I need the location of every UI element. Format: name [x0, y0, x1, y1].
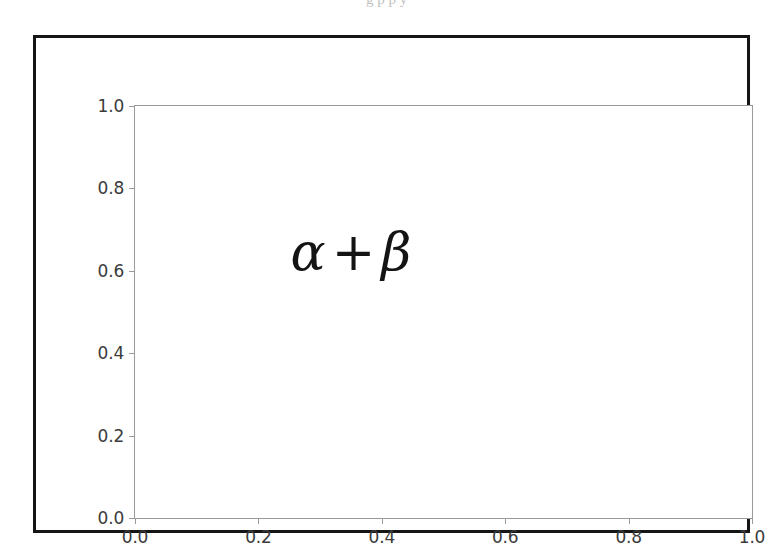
y-tick-label: 0.4 — [98, 343, 124, 363]
x-tick-label: 0.6 — [492, 527, 518, 547]
beta-glyph: β — [381, 222, 411, 282]
y-tick-mark — [129, 271, 135, 272]
x-tick-mark — [135, 518, 136, 524]
y-tick-label: 0.2 — [98, 426, 124, 446]
y-tick-label: 0.0 — [98, 508, 124, 528]
plus-operator-glyph: + — [326, 222, 382, 282]
x-tick-mark — [629, 518, 630, 524]
x-tick-label: 0.4 — [369, 527, 395, 547]
figure-frame: 0.00.20.40.60.81.0 0.00.20.40.60.81.0 α+… — [33, 35, 750, 533]
y-tick-label: 0.8 — [98, 178, 124, 198]
y-tick-mark — [129, 353, 135, 354]
y-tick-label: 1.0 — [98, 96, 124, 116]
x-tick-label: 0.0 — [122, 527, 148, 547]
x-tick-label: 1.0 — [739, 527, 765, 547]
y-tick-mark — [129, 188, 135, 189]
x-tick-label: 0.8 — [615, 527, 641, 547]
page-top-text-bleed: g p p y — [0, 0, 773, 7]
alpha-glyph: α — [291, 222, 326, 282]
y-tick-label: 0.6 — [98, 261, 124, 281]
math-annotation-alpha-plus-beta: α+β — [291, 226, 412, 278]
x-tick-mark — [505, 518, 506, 524]
x-tick-mark — [382, 518, 383, 524]
y-tick-mark — [129, 106, 135, 107]
x-tick-label: 0.2 — [245, 527, 271, 547]
x-tick-mark — [752, 518, 753, 524]
y-tick-mark — [129, 436, 135, 437]
plot-area: 0.00.20.40.60.81.0 0.00.20.40.60.81.0 α+… — [134, 105, 753, 519]
x-tick-mark — [258, 518, 259, 524]
